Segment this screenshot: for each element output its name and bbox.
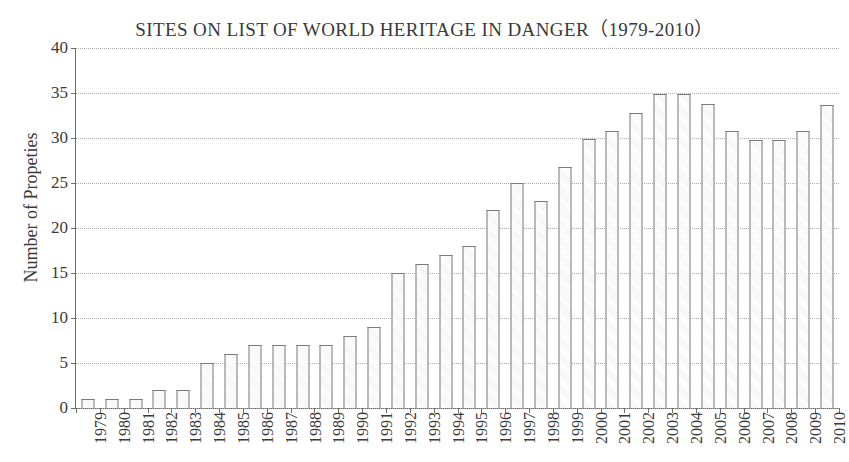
x-tick-label: 2010 [832,412,848,444]
bar-slot [195,48,219,408]
x-tick-label: 1979 [93,412,109,444]
x-tick-label: 1989 [331,412,347,444]
bar-slot [76,48,100,408]
bar-slot [219,48,243,408]
bar-slot [100,48,124,408]
bar-slot [291,48,315,408]
y-tick-label: 5 [60,353,69,373]
bar-slot [744,48,768,408]
x-tick-label: 2003 [665,412,681,444]
bar[interactable] [153,390,166,408]
bar[interactable] [463,246,476,408]
x-tick-label: 1984 [212,412,228,444]
x-tick-label: 2005 [713,412,729,444]
x-tick-label: 1991 [379,412,395,444]
bar[interactable] [487,210,500,408]
bar[interactable] [534,201,547,408]
x-tick-label: 1997 [522,412,538,444]
bar[interactable] [415,264,428,408]
y-tick-label: 10 [51,308,68,328]
bar-slot [267,48,291,408]
bar[interactable] [773,140,786,408]
bar[interactable] [439,255,452,408]
bar[interactable] [129,399,142,408]
x-tick-label: 1999 [570,412,586,444]
x-tick-label: 1998 [546,412,562,444]
bar[interactable] [511,183,524,408]
bar-slot [338,48,362,408]
bar-slot [815,48,839,408]
y-tick-label: 35 [51,83,68,103]
x-tick-label: 2000 [594,412,610,444]
bar-slot [505,48,529,408]
x-tick-label: 1981 [141,412,157,444]
x-tick-label: 2006 [737,412,753,444]
bar[interactable] [320,345,333,408]
bar-slot [124,48,148,408]
bar-slot [243,48,267,408]
bar[interactable] [821,105,834,408]
chart-title: SITES ON LIST OF WORLD HERITAGE IN DANGE… [0,14,849,41]
x-tick-label: 2007 [761,412,777,444]
x-tick-label: 2008 [784,412,800,444]
bar-slot [148,48,172,408]
bar-slot [171,48,195,408]
x-tick-label: 1982 [164,412,180,444]
bar[interactable] [630,113,643,408]
bar-slot [434,48,458,408]
plot-area: 0510152025303540 [75,48,839,409]
y-tick-label: 25 [51,173,68,193]
bar[interactable] [678,94,691,408]
bar[interactable] [725,131,738,408]
bar-slot [386,48,410,408]
bar[interactable] [749,140,762,408]
bar[interactable] [272,345,285,408]
bar[interactable] [654,94,667,408]
x-tick-label: 1995 [474,412,490,444]
bar[interactable] [201,363,214,408]
bar-slot [410,48,434,408]
bar-series [76,48,839,408]
bar[interactable] [797,131,810,408]
bar[interactable] [296,345,309,408]
bar[interactable] [177,390,190,408]
bar[interactable] [248,345,261,408]
bar-slot [767,48,791,408]
x-tick-label: 1985 [236,412,252,444]
x-tick-label: 2004 [689,412,705,444]
chart-container: SITES ON LIST OF WORLD HERITAGE IN DANGE… [0,0,849,462]
x-tick-label: 2001 [617,412,633,444]
x-tick-label: 1990 [355,412,371,444]
x-tick-label: 1994 [451,412,467,444]
bar-slot [601,48,625,408]
x-tick-label: 1992 [403,412,419,444]
x-tick-label: 2009 [808,412,824,444]
bar[interactable] [81,399,94,408]
y-axis-label: Number of Propeties [21,58,42,358]
x-tick-label: 1980 [117,412,133,444]
bar-slot [648,48,672,408]
bar-slot [529,48,553,408]
y-tick-label: 15 [51,263,68,283]
bar-slot [481,48,505,408]
x-tick-label: 1988 [308,412,324,444]
bar[interactable] [368,327,381,408]
bar[interactable] [344,336,357,408]
x-tick-label: 1983 [188,412,204,444]
bar[interactable] [606,131,619,408]
bar[interactable] [701,104,714,408]
x-tick-label: 2002 [641,412,657,444]
bar[interactable] [558,167,571,408]
y-tick-label: 40 [51,38,68,58]
bar-slot [458,48,482,408]
bar[interactable] [391,273,404,408]
x-tick-label: 1993 [427,412,443,444]
bar-slot [624,48,648,408]
bar-slot [720,48,744,408]
bar[interactable] [582,139,595,408]
bar[interactable] [105,399,118,408]
bar[interactable] [224,354,237,408]
y-tick-label: 20 [51,218,68,238]
x-axis-tick-labels: 1979198019811982198319841985198619871988… [75,412,839,462]
bar-slot-end [839,48,840,408]
